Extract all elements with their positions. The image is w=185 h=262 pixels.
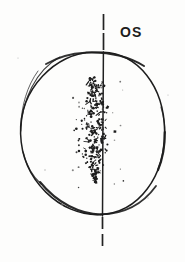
visual-field-svg	[0, 0, 185, 262]
visual-field-figure: OS	[0, 0, 185, 262]
eye-designation-label: OS	[120, 25, 143, 39]
scotoma-stipple-cloud	[72, 76, 124, 188]
